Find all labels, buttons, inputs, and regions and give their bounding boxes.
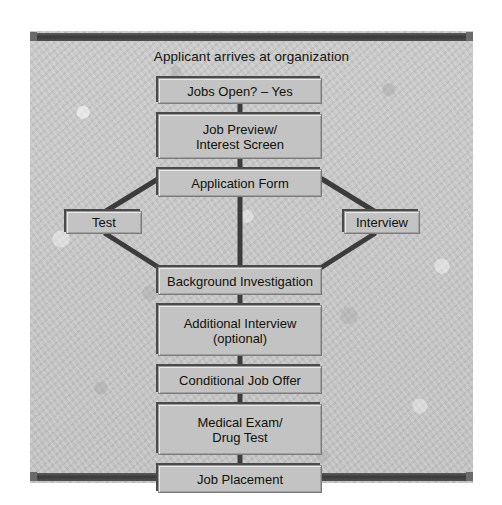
frame-top-bar xyxy=(30,33,473,41)
edge-application-form-to-interview xyxy=(322,179,374,211)
node-interview[interactable]: Interview xyxy=(344,211,420,234)
node-conditional-job-offer[interactable]: Conditional Job Offer xyxy=(158,366,322,394)
diagram-title: Applicant arrives at organization xyxy=(30,49,473,64)
node-background-investigation[interactable]: Background Investigation xyxy=(158,267,322,295)
edge-test-to-background xyxy=(106,234,158,267)
diagram-canvas: Applicant arrives at organization Jobs O… xyxy=(0,0,502,505)
node-additional-interview[interactable]: Additional Interview (optional) xyxy=(158,305,322,356)
node-jobs-open[interactable]: Jobs Open? – Yes xyxy=(158,78,322,104)
frame-corner-bottom-right-nub xyxy=(466,472,473,481)
edge-application-form-to-test xyxy=(106,179,158,211)
frame-corner-top-right-nub xyxy=(466,32,473,41)
textured-frame: Applicant arrives at organization Jobs O… xyxy=(30,31,473,483)
edge-interview-to-background xyxy=(322,234,374,267)
frame-corner-top-left-nub xyxy=(30,32,37,41)
node-job-preview[interactable]: Job Preview/ Interest Screen xyxy=(158,114,322,159)
node-medical-exam[interactable]: Medical Exam/ Drug Test xyxy=(158,404,322,455)
frame-corner-bottom-left-nub xyxy=(30,472,37,481)
node-test[interactable]: Test xyxy=(66,211,142,234)
node-application-form[interactable]: Application Form xyxy=(158,169,322,197)
node-job-placement[interactable]: Job Placement xyxy=(158,465,322,493)
